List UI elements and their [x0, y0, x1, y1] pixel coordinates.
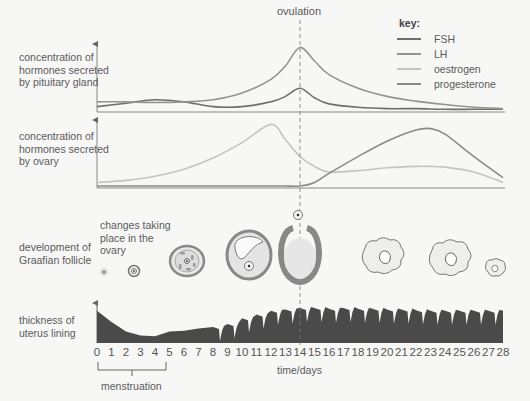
- corpus-luteum-2: [429, 240, 471, 276]
- legend-item-fsh: FSH: [397, 33, 455, 45]
- legend-item-progesterone: progesterone: [397, 78, 496, 90]
- uterus-label: thickness of uterus lining: [19, 314, 99, 339]
- legend-item-lh: LH: [397, 48, 447, 60]
- follicle-stage-1: [100, 268, 108, 276]
- follicle-stage-ovulation: [281, 211, 319, 283]
- follicle-stage-4: [227, 231, 271, 279]
- corpus-luteum-1: [362, 238, 404, 274]
- legend-swatch-fsh: [397, 38, 421, 40]
- x-axis-label: time/days: [277, 364, 322, 376]
- ovary-changes-label: changes taking place in the ovary: [100, 219, 180, 257]
- corpus-albicans: [485, 259, 505, 277]
- legend-item-oestrogen: oestrogen: [397, 63, 481, 75]
- ovary-axes: [97, 120, 505, 188]
- legend-title: key:: [399, 17, 420, 29]
- legend-swatch-progesterone: [397, 83, 421, 85]
- follicle-stage-2: [129, 266, 140, 277]
- ovulation-label: ovulation: [277, 5, 321, 17]
- menstruation-label: menstruation: [101, 380, 162, 392]
- menstruation-bracket: [98, 362, 166, 376]
- follicle-label: development of Graafian follicle: [19, 241, 99, 266]
- pituitary-label: concentration of hormones secreted by pi…: [19, 51, 114, 89]
- x-tick-28: 28: [495, 346, 511, 358]
- legend-swatch-lh: [397, 53, 421, 55]
- ovary-label: concentration of hormones secreted by ov…: [19, 130, 114, 168]
- legend-swatch-oestrogen: [397, 68, 421, 70]
